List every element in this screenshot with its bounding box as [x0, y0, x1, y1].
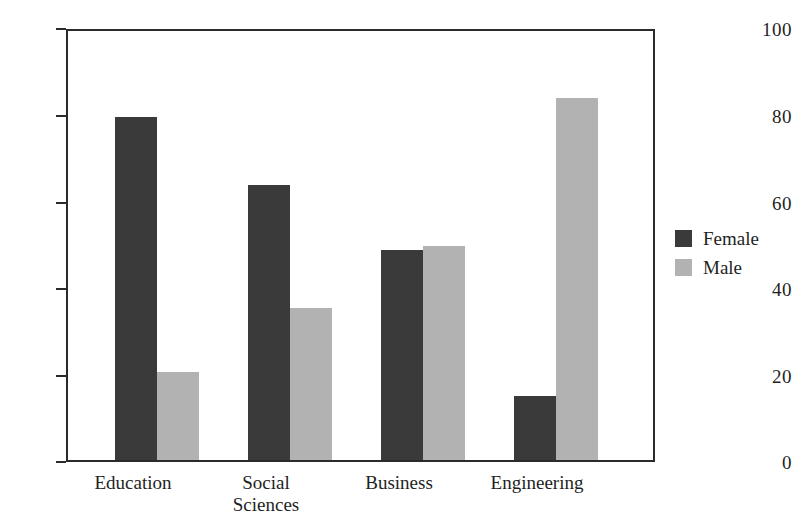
- y-tick-mark: [56, 202, 66, 204]
- x-axis-label-engineering: Engineering: [462, 472, 612, 494]
- legend-item-male: Male: [675, 255, 759, 280]
- y-tick-mark: [56, 375, 66, 377]
- legend: Female Male: [675, 226, 759, 284]
- bar-social-sciences-female: [248, 185, 290, 460]
- plot-area: [66, 29, 655, 462]
- bar-education-female: [115, 117, 157, 460]
- bars-container: [68, 31, 653, 460]
- legend-swatch-icon: [675, 259, 692, 276]
- y-tick-label: 0: [746, 453, 792, 472]
- y-tick-label: 20: [746, 367, 792, 386]
- y-tick-mark: [56, 461, 66, 463]
- y-tick-mark: [56, 28, 66, 30]
- bar-chart: 100 80 60 40 20 0 Education: [0, 0, 792, 528]
- legend-label-female: Female: [703, 229, 759, 248]
- bar-social-sciences-male: [290, 308, 332, 460]
- bar-business-male: [423, 246, 465, 461]
- bar-engineering-female: [514, 396, 556, 460]
- bar-engineering-male: [556, 98, 598, 461]
- bar-education-male: [157, 372, 199, 460]
- y-tick-mark: [56, 288, 66, 290]
- y-tick-label: 100: [746, 20, 792, 39]
- legend-label-male: Male: [703, 258, 742, 277]
- y-tick-label: 60: [746, 194, 792, 213]
- legend-item-female: Female: [675, 226, 759, 251]
- y-tick-label: 80: [746, 107, 792, 126]
- y-tick-mark: [56, 115, 66, 117]
- x-axis-label-education: Education: [63, 472, 203, 494]
- x-axis-label-social-sciences: Social Sciences: [196, 472, 336, 516]
- bar-business-female: [381, 250, 423, 460]
- x-axis-label-business: Business: [329, 472, 469, 494]
- legend-swatch-icon: [675, 230, 692, 247]
